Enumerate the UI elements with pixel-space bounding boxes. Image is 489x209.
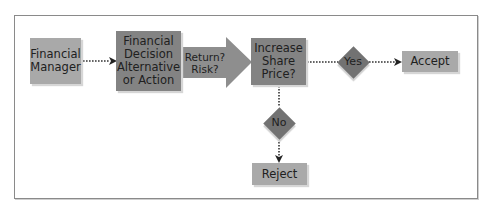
decision-node: Financial Decision Alternative or Action: [116, 31, 181, 91]
evaluation-arrow-label: Return? Risk?: [185, 51, 225, 75]
reject-label: Reject: [262, 168, 298, 181]
financial-manager-label: Financial Manager: [30, 48, 80, 74]
financial-manager-node: Financial Manager: [30, 38, 81, 84]
no-label: No: [259, 116, 299, 129]
yes-label: Yes: [333, 55, 373, 68]
accept-node: Accept: [402, 51, 458, 72]
decision-label: Financial Decision Alternative or Action: [117, 35, 180, 87]
connectors: [0, 0, 489, 209]
accept-label: Accept: [410, 55, 449, 68]
increase-share-price-node: Increase Share Price?: [251, 38, 306, 85]
increase-share-price-label: Increase Share Price?: [254, 42, 303, 81]
evaluation-arrow: Return? Risk?: [183, 48, 227, 77]
reject-node: Reject: [252, 163, 307, 185]
